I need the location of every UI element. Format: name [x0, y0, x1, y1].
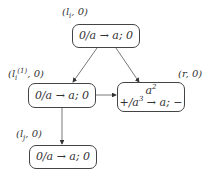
label-sub: i [15, 74, 17, 82]
node-bottom[interactable]: 0/a → a; 0 [29, 145, 97, 169]
content-post: → a; − [143, 96, 182, 109]
content-pre: +/a [119, 96, 138, 109]
node-label-right: (r, 0) [178, 68, 202, 79]
label-tail: , 0) [71, 6, 88, 17]
node-content: 0/a → a; 0 [35, 90, 89, 102]
node-left[interactable]: 0/a → a; 0 [28, 83, 96, 108]
node-right[interactable]: a2 +/a3 → a; − [117, 82, 185, 112]
label-sup: (1) [17, 67, 27, 75]
content-sup: 2 [152, 83, 156, 91]
node-label-left: (li(1), 0) [8, 68, 44, 79]
node-content-bottom: +/a3 → a; − [119, 97, 182, 109]
edge-top-to-right [116, 48, 139, 82]
node-label-bottom: (lj, 0) [16, 128, 42, 139]
node-label-top: (li, 0) [62, 6, 88, 17]
label-tail: , 0) [27, 68, 44, 79]
node-top[interactable]: 0/a → a; 0 [72, 24, 140, 48]
node-content: 0/a → a; 0 [79, 30, 133, 42]
node-content: 0/a → a; 0 [36, 151, 90, 163]
label-tail: , 0) [25, 128, 42, 139]
edge-top-to-left [73, 48, 97, 82]
state-diagram: (li, 0) 0/a → a; 0 (li(1), 0) 0/a → a; 0… [0, 0, 208, 178]
label-tail: , 0) [186, 68, 203, 79]
